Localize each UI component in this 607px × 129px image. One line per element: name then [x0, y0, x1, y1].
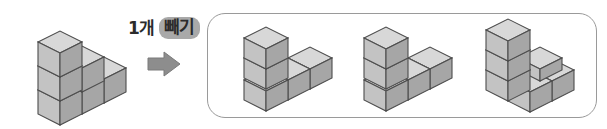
cube-group-option-1: [244, 27, 332, 111]
answer-option-3[interactable]: [466, 18, 594, 115]
operation-count-label: 1개: [128, 20, 155, 37]
answer-option-3-svg: [466, 18, 594, 115]
answer-option-1[interactable]: [222, 18, 350, 115]
cube-group-option-3: [486, 19, 574, 112]
answer-option-1-svg: [222, 18, 350, 115]
original-cube-structure: [18, 8, 138, 123]
answer-choices-panel: [207, 13, 597, 118]
operation-verb-label: 빼기: [159, 17, 200, 39]
operation-label: 1개 빼기: [128, 15, 200, 41]
answer-option-2-svg: [342, 18, 470, 115]
answer-option-2[interactable]: [342, 18, 470, 115]
cube-group-option-2: [364, 27, 452, 111]
figure-stage: 1개 빼기: [0, 0, 607, 129]
arrow-right-icon: [146, 50, 184, 80]
cube-group-original: [38, 31, 126, 125]
original-cube-svg: [18, 8, 138, 123]
arrow-right-svg: [146, 50, 184, 80]
